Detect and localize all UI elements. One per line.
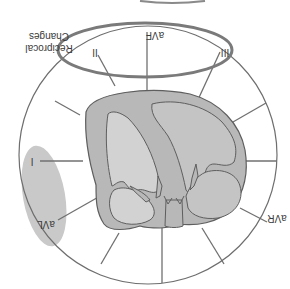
spoke-lower-left: [101, 233, 119, 264]
lead-label-II: II: [92, 47, 98, 58]
lead-label-aVF: aVF: [146, 30, 164, 41]
inferior-leads-highlight: [58, 23, 232, 77]
spoke-upper-left: [55, 101, 80, 115]
spoke-aVR: [240, 208, 267, 222]
spoke-II: [98, 55, 115, 86]
annotation-changes: Changes: [29, 31, 69, 42]
top-edge-ellipse-fragment: [140, 1, 205, 3]
lateral-leads-highlight: [14, 142, 73, 250]
lead-label-aVL: aVL: [37, 219, 55, 230]
lead-label-I: I: [31, 156, 34, 167]
spoke-lower-right: [202, 228, 224, 264]
lead-label-III: III: [221, 47, 229, 58]
lead-label-aVR: aVR: [267, 213, 286, 224]
annotation-reciprocal: Reciprocal: [25, 43, 72, 54]
hexaxial-heart-diagram: aVF II III I aVL aVR Reciprocal Changes: [0, 0, 290, 289]
spoke-III: [196, 52, 220, 104]
